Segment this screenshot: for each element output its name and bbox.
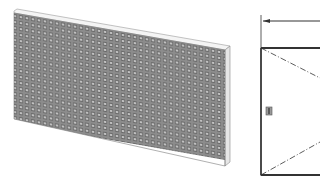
elevation-drawing bbox=[261, 15, 320, 176]
perforated-panel bbox=[10, 2, 235, 166]
arrow-head-icon bbox=[263, 19, 270, 23]
figure bbox=[0, 0, 320, 186]
diagonal-upper bbox=[261, 48, 320, 78]
figure-canvas bbox=[0, 0, 320, 186]
panel-side-edge bbox=[225, 46, 230, 166]
panel-face bbox=[10, 2, 235, 161]
diagonal-lower bbox=[261, 142, 320, 175]
